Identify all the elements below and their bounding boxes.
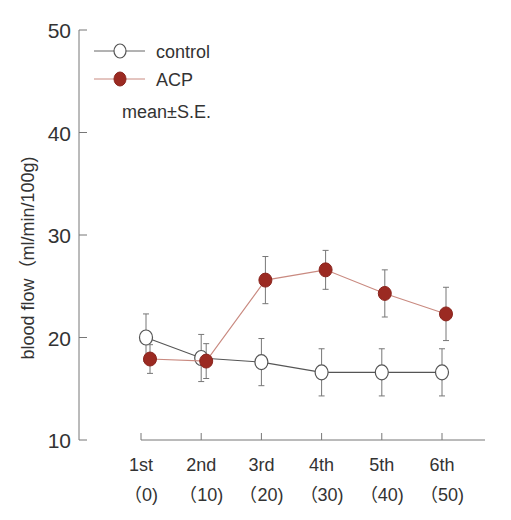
x-tick-label: 3rd <box>248 455 274 475</box>
x-tick-label: 6th <box>429 455 454 475</box>
y-tick-label: 50 <box>48 19 71 42</box>
open-circle-marker-icon <box>315 365 328 380</box>
y-axis-label: blood flow（ml/min/100g) <box>18 156 38 359</box>
legend: control ACP mean±S.E. <box>94 42 211 122</box>
open-circle-marker-icon <box>375 365 388 380</box>
open-circle-marker-icon <box>255 355 268 370</box>
legend-acp-marker-icon <box>114 72 126 86</box>
legend-acp-label: ACP <box>156 70 193 90</box>
x-axis-ticks: 1st（0)2nd（10)3rd（20)4th（30)5th（40)6th（50… <box>124 433 464 505</box>
legend-control-marker-icon <box>114 44 126 58</box>
x-tick-sublabel: （40) <box>360 485 404 505</box>
y-tick-label: 30 <box>48 224 71 247</box>
series-line <box>146 338 442 373</box>
series-acp <box>144 250 453 378</box>
legend-note: mean±S.E. <box>122 102 211 122</box>
y-axis-label-text: blood flow（ml/min/100g) <box>18 156 38 359</box>
y-tick-label: 20 <box>48 327 71 350</box>
series-line <box>150 270 446 361</box>
legend-control-label: control <box>156 42 210 62</box>
axes <box>79 30 485 440</box>
series <box>140 250 453 396</box>
x-tick-label: 2nd <box>186 455 216 475</box>
open-circle-marker-icon <box>436 365 449 380</box>
x-tick-label: 1st <box>129 455 153 475</box>
open-circle-marker-icon <box>140 330 153 345</box>
x-tick-label: 4th <box>309 455 334 475</box>
series-control <box>140 314 449 396</box>
filled-circle-marker-icon <box>378 286 391 300</box>
x-tick-sublabel: （50) <box>420 485 464 505</box>
x-tick-label: 5th <box>369 455 394 475</box>
filled-circle-marker-icon <box>319 263 332 277</box>
x-tick-sublabel: （30) <box>300 485 344 505</box>
filled-circle-marker-icon <box>144 352 157 366</box>
y-axis-ticks: 1020304050 <box>48 19 87 452</box>
x-tick-sublabel: （0) <box>124 485 158 505</box>
filled-circle-marker-icon <box>259 273 272 287</box>
x-tick-sublabel: （20) <box>239 485 283 505</box>
x-tick-sublabel: （10) <box>179 485 223 505</box>
y-tick-label: 10 <box>48 429 71 452</box>
filled-circle-marker-icon <box>200 354 213 368</box>
y-tick-label: 40 <box>48 122 71 145</box>
filled-circle-marker-icon <box>440 307 453 321</box>
blood-flow-chart: 1020304050 1st（0)2nd（10)3rd（20)4th（30)5t… <box>0 0 511 520</box>
